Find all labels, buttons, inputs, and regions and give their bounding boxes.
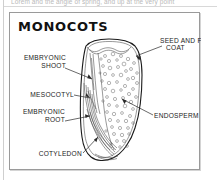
arrowhead-endosperm xyxy=(122,99,127,104)
label-seed-and-fruit-coat-line2: COAT xyxy=(166,44,185,51)
leader-seed-and-fruit-coat xyxy=(136,46,162,56)
label-embryonic-root-line1: EMBRYONIC xyxy=(23,108,65,115)
label-mesocotyl: MESOCOTYL xyxy=(30,91,74,98)
arrowhead-cotyledon xyxy=(94,137,98,142)
page-left-rule xyxy=(3,0,4,180)
page-top-rule xyxy=(4,6,217,7)
arrowhead-embryonic-shoot xyxy=(87,74,92,79)
label-embryonic-shoot-line1: EMBRYONIC xyxy=(24,54,66,61)
monocot-seed-diagram: EMBRYONIC SHOOT MESOCOTYL EMBRYONIC ROOT… xyxy=(10,13,201,171)
kernel-crown-scallop xyxy=(87,47,131,52)
cut-off-body-text: Lorem and the angle of spring, and up at… xyxy=(11,0,211,6)
label-embryonic-shoot-line2: SHOOT xyxy=(41,62,66,69)
page-canvas: Lorem and the angle of spring, and up at… xyxy=(0,0,217,180)
label-embryonic-root-line2: ROOT xyxy=(45,116,65,123)
label-cotyledon: COTYLEDON xyxy=(39,150,82,157)
embryo-region xyxy=(84,53,118,160)
label-seed-and-fruit-coat-line1: SEED AND FRUIT xyxy=(160,37,201,44)
label-endosperm: ENDOSPERM xyxy=(154,112,199,119)
figure-box: MONOCOTS xyxy=(9,12,200,170)
